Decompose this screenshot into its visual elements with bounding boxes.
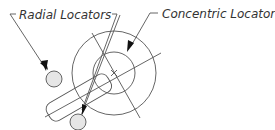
radial-locator-upper [46,71,62,87]
radial-locators-label: Radial Locators [18,8,112,22]
centerline-diagonal-a [45,53,161,117]
arrowhead-radial-lower [82,104,87,115]
locator-diagram: Radial Locators Concentric Locator [0,0,275,130]
arrowhead-radial-upper-fill [41,60,48,71]
concentric-leader [131,13,158,46]
radial-leader-right [82,14,117,110]
centerline-long [80,15,120,118]
concentric-locator-label: Concentric Locator [161,7,275,21]
radial-locator-lower [70,114,86,130]
